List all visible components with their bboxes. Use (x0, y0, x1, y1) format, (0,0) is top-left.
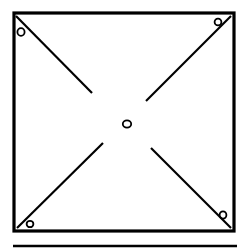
hole-top-right (215, 19, 222, 26)
technical-drawing-svg (0, 0, 248, 252)
hole-top-left (17, 28, 24, 36)
diagonal-top-right (146, 16, 231, 101)
diagonal-top-left (16, 16, 92, 93)
diagonal-bottom-left (17, 143, 103, 228)
hole-center (123, 120, 131, 127)
hole-bottom-right (220, 211, 227, 218)
figure-canvas (0, 0, 248, 252)
hole-bottom-left (27, 221, 34, 227)
